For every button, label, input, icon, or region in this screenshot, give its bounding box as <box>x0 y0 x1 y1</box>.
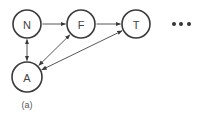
ellipsis-icon <box>172 22 191 26</box>
ellipsis-dot <box>179 22 183 26</box>
ellipsis-dot <box>187 22 191 26</box>
node-label: A <box>23 72 31 84</box>
node-label: F <box>78 19 85 31</box>
node-t: T <box>122 10 150 38</box>
figure-caption: (a) <box>22 100 33 110</box>
node-a: A <box>12 62 42 92</box>
edge-a-f-bidirectional-arrow <box>39 35 70 66</box>
diagram-canvas: NFTA (a) <box>0 0 199 118</box>
node-n: N <box>13 10 41 38</box>
state-graph: NFTA (a) <box>0 0 199 118</box>
ellipsis-dot <box>172 22 176 26</box>
node-f: F <box>67 10 95 38</box>
node-label: N <box>23 19 31 31</box>
node-label: T <box>133 19 140 31</box>
